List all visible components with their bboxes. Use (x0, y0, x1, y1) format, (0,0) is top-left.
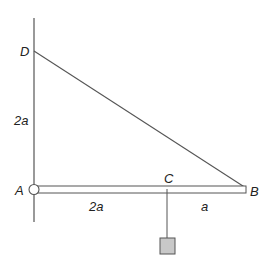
rod-AB (34, 186, 246, 193)
string-DB (34, 51, 246, 188)
label-C: C (164, 171, 174, 186)
label-AC-length: 2a (88, 199, 103, 214)
statics-diagram: D 2a A C B 2a a (0, 0, 270, 259)
label-A: A (14, 183, 24, 198)
label-D: D (20, 44, 29, 59)
hinge-A (29, 185, 39, 195)
weight-block (160, 238, 175, 254)
label-CB-length: a (201, 199, 208, 214)
label-B: B (250, 184, 259, 199)
label-wall-length: 2a (13, 113, 28, 128)
